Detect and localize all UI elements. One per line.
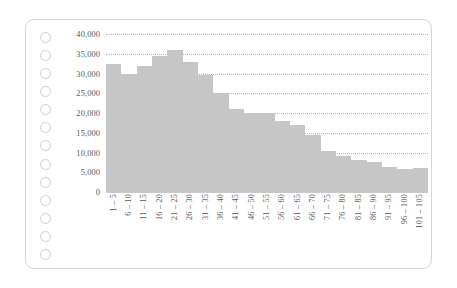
y-tick-label: 40,000 — [76, 30, 100, 39]
x-tick-label: 26 – 30 — [186, 194, 194, 220]
x-tick-label: 86 – 90 — [370, 194, 378, 220]
x-tick-label: 31 – 35 — [202, 194, 210, 220]
x-tick-label: 46 – 50 — [248, 194, 256, 220]
x-tick: 16 – 20 — [152, 194, 167, 260]
circle-hole-icon — [40, 249, 51, 260]
x-tick: 36 – 40 — [213, 194, 228, 260]
x-tick: 71 – 75 — [321, 194, 336, 260]
x-tick-label: 66 – 70 — [309, 194, 317, 220]
x-tick-label: 101 – 105 — [416, 194, 424, 229]
y-tick-label: 5,000 — [81, 168, 100, 177]
circle-hole-icon — [40, 213, 51, 224]
x-tick: 76 – 80 — [336, 194, 351, 260]
x-tick-label: 96 – 100 — [401, 194, 409, 224]
x-tick: 51 – 55 — [259, 194, 274, 260]
bar[interactable] — [290, 125, 305, 192]
y-tick-label: 0 — [96, 188, 100, 197]
x-tick: 1 – 5 — [106, 194, 121, 260]
x-tick-label: 6 – 10 — [125, 194, 133, 216]
y-tick-label: 10,000 — [76, 148, 100, 157]
bar[interactable] — [367, 162, 382, 192]
circle-hole-icon — [40, 122, 51, 133]
x-tick-label: 1 – 5 — [110, 194, 118, 211]
x-tick-label: 51 – 55 — [263, 194, 271, 220]
bar[interactable] — [275, 121, 290, 192]
y-tick-label: 25,000 — [76, 89, 100, 98]
x-tick-label: 56 – 60 — [278, 194, 286, 220]
x-tick: 91 – 95 — [382, 194, 397, 260]
bar[interactable] — [351, 160, 366, 192]
circle-hole-icon — [40, 50, 51, 61]
chart-container: 05,00010,00015,00020,00025,00030,00035,0… — [56, 34, 428, 262]
x-tick-label: 76 – 80 — [339, 194, 347, 220]
x-axis: 1 – 56 – 1011 – 1516 – 2021 – 2526 – 303… — [106, 194, 428, 260]
bar[interactable] — [305, 135, 320, 192]
y-tick-label: 35,000 — [76, 49, 100, 58]
bar[interactable] — [183, 62, 198, 192]
bar[interactable] — [336, 156, 351, 192]
bar[interactable] — [244, 113, 259, 192]
y-axis: 05,00010,00015,00020,00025,00030,00035,0… — [56, 34, 103, 192]
y-tick-label: 20,000 — [76, 109, 100, 118]
x-tick-label: 36 – 40 — [217, 194, 225, 220]
bar[interactable] — [397, 169, 412, 192]
bar[interactable] — [213, 93, 228, 192]
plot-area: 05,00010,00015,00020,00025,00030,00035,0… — [56, 34, 428, 262]
y-tick-label: 30,000 — [76, 69, 100, 78]
circle-hole-icon — [40, 32, 51, 43]
bar[interactable] — [167, 50, 182, 192]
bar[interactable] — [152, 56, 167, 192]
bar[interactable] — [413, 168, 428, 192]
bar[interactable] — [106, 64, 121, 192]
circle-hole-icon — [40, 195, 51, 206]
x-tick: 6 – 10 — [121, 194, 136, 260]
bar[interactable] — [382, 167, 397, 192]
x-tick-label: 91 – 95 — [385, 194, 393, 220]
x-tick: 81 – 85 — [351, 194, 366, 260]
x-tick-label: 16 – 20 — [156, 194, 164, 220]
circle-hole-icon — [40, 231, 51, 242]
x-tick: 46 – 50 — [244, 194, 259, 260]
bar[interactable] — [198, 75, 213, 192]
circle-hole-icon — [40, 68, 51, 79]
x-tick: 96 – 100 — [397, 194, 412, 260]
x-tick-label: 21 – 25 — [171, 194, 179, 220]
bar[interactable] — [229, 109, 244, 192]
x-tick-label: 71 – 75 — [324, 194, 332, 220]
bar[interactable] — [121, 74, 136, 193]
x-tick: 31 – 35 — [198, 194, 213, 260]
circle-hole-icon — [40, 177, 51, 188]
bar-series — [106, 34, 428, 192]
bar[interactable] — [137, 66, 152, 192]
punch-hole-strip — [34, 32, 56, 260]
x-tick-label: 11 – 15 — [140, 194, 148, 220]
circle-hole-icon — [40, 86, 51, 97]
circle-hole-icon — [40, 159, 51, 170]
x-tick: 21 – 25 — [167, 194, 182, 260]
circle-hole-icon — [40, 104, 51, 115]
x-tick: 41 – 45 — [229, 194, 244, 260]
notebook-page-card: 05,00010,00015,00020,00025,00030,00035,0… — [25, 19, 432, 269]
x-tick-label: 61 – 65 — [294, 194, 302, 220]
x-tick-label: 41 – 45 — [232, 194, 240, 220]
y-tick-label: 15,000 — [76, 128, 100, 137]
x-tick: 61 – 65 — [290, 194, 305, 260]
x-tick: 66 – 70 — [305, 194, 320, 260]
x-tick: 101 – 105 — [413, 194, 428, 260]
x-tick: 56 – 60 — [275, 194, 290, 260]
gridline — [106, 192, 428, 193]
bar[interactable] — [259, 113, 274, 192]
x-tick: 86 – 90 — [367, 194, 382, 260]
bar[interactable] — [321, 151, 336, 192]
x-tick-label: 81 – 85 — [355, 194, 363, 220]
x-tick: 26 – 30 — [183, 194, 198, 260]
circle-hole-icon — [40, 140, 51, 151]
x-tick: 11 – 15 — [137, 194, 152, 260]
